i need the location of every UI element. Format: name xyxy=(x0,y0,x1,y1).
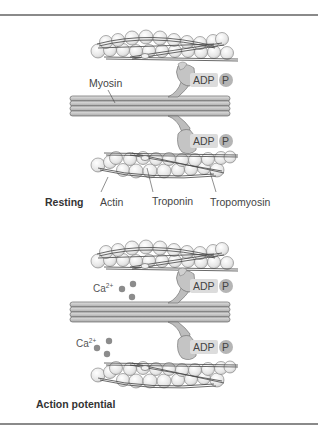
calcium-symbol: Ca xyxy=(76,338,89,349)
adp-label: ADP xyxy=(193,74,215,86)
phosphate-label: P xyxy=(222,135,229,147)
adp-label: ADP xyxy=(193,280,215,292)
panel-title-resting: Resting xyxy=(45,196,84,208)
calcium-charge: 2+ xyxy=(89,337,96,344)
panel-title-action-potential: Action potential xyxy=(36,398,115,410)
myosin-label: Myosin xyxy=(89,77,122,89)
phosphate-label: P xyxy=(222,280,229,292)
phosphate-label: P xyxy=(222,341,229,353)
sarcomere-diagram xyxy=(0,0,318,437)
calcium-label: Ca2+ xyxy=(76,337,96,349)
tropomyosin-label: Tropomyosin xyxy=(210,196,270,208)
calcium-symbol: Ca xyxy=(93,283,106,294)
action-potential-panel xyxy=(70,240,238,388)
troponin-label: Troponin xyxy=(152,195,193,207)
phosphate-label: P xyxy=(222,74,229,86)
resting-panel xyxy=(70,30,238,192)
calcium-label: Ca2+ xyxy=(93,282,113,294)
adp-label: ADP xyxy=(193,341,215,353)
calcium-charge: 2+ xyxy=(106,282,113,289)
adp-label: ADP xyxy=(193,135,215,147)
actin-label: Actin xyxy=(100,196,123,208)
